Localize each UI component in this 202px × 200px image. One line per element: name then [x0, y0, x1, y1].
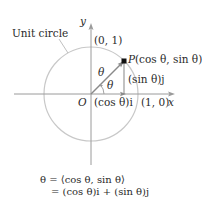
x-intercept-label: (1, 0)	[141, 96, 169, 108]
x-axis-label: x	[168, 96, 174, 108]
point-p-marker	[122, 59, 127, 64]
cos-component-label: (cos θ)i	[94, 96, 133, 108]
unit-circle-diagram: Unit circle y (0, 1) P (cos θ, sin θ) θ …	[0, 0, 202, 200]
vector-label: θ	[98, 66, 105, 78]
y-axis-label: y	[79, 15, 87, 27]
equation-line-2: = (cos θ)i + (sin θ)j	[51, 185, 149, 198]
y-intercept-label: (0, 1)	[94, 34, 122, 46]
point-p-coords: (cos θ, sin θ)	[135, 53, 202, 65]
unit-circle-label: Unit circle	[12, 27, 68, 39]
circle-label-leader	[59, 39, 68, 53]
origin-label: O	[78, 96, 87, 108]
angle-label: θ	[107, 79, 114, 91]
sin-component-label: (sin θ)j	[128, 73, 165, 85]
